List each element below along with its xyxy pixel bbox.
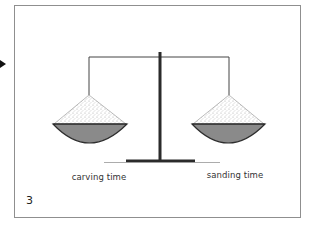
left-pan — [53, 95, 127, 143]
right-pan — [192, 95, 265, 143]
left-pan-label: carving time — [72, 172, 127, 182]
balance-scale-diagram — [0, 0, 311, 228]
scale-base — [104, 160, 220, 163]
right-pan-label: sanding time — [207, 170, 264, 180]
center-pole — [159, 52, 162, 162]
slide-number: 3 — [26, 194, 33, 207]
